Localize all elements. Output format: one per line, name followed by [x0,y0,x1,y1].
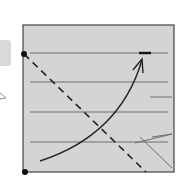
diagram-canvas [0,0,182,190]
node-top [21,51,27,57]
side-arrow-icon [0,93,6,99]
node-bottom [22,169,28,175]
side-tab [0,40,11,66]
diagram-panel [23,25,174,172]
